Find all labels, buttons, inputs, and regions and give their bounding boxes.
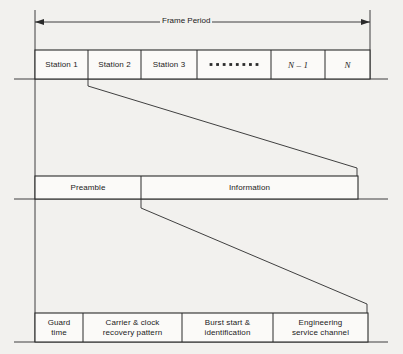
ellipsis-dot bbox=[256, 63, 259, 66]
ellipsis-dot bbox=[236, 63, 239, 66]
frame-row-outline bbox=[35, 50, 370, 79]
ellipsis-dot bbox=[249, 63, 252, 66]
ellipsis-dot bbox=[242, 63, 245, 66]
row-boxes-group bbox=[35, 50, 370, 342]
frame-structure-diagram: Station 1Station 2Station 3N – 1NPreambl… bbox=[0, 0, 403, 354]
preamble-to-detail-connector bbox=[141, 199, 367, 313]
ellipsis-dot bbox=[229, 63, 232, 66]
ellipsis-dot bbox=[210, 63, 213, 66]
station2-to-burst-connector bbox=[88, 79, 357, 176]
diagram-canvas bbox=[0, 0, 403, 354]
burst-row-outline bbox=[35, 176, 358, 199]
frame-period-label: Frame Period bbox=[160, 16, 212, 26]
ellipsis-dot bbox=[216, 63, 219, 66]
preamble-detail-row-outline bbox=[35, 313, 368, 342]
frame-period-arrowhead-left bbox=[35, 19, 44, 25]
frame-period-arrowhead-right bbox=[361, 19, 370, 25]
ellipsis-dot bbox=[223, 63, 226, 66]
